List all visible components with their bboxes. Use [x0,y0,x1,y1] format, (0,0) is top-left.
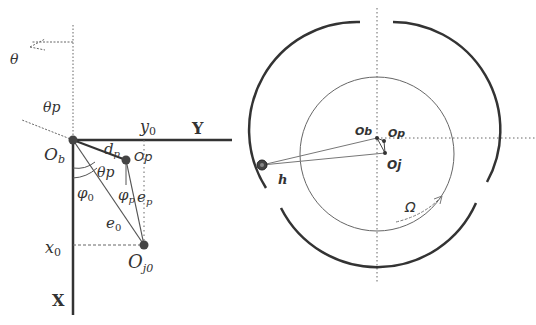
oj-point-right [383,151,387,155]
e0-label: e0 [106,214,121,233]
ob-label-right: Ob [355,125,372,138]
h-label: h [278,172,287,187]
oj0-label: Oj0 [128,251,153,275]
op-label-right: Op [388,127,405,140]
theta-arrow-icon [30,39,73,50]
theta-p-label-inner: θp [97,164,114,180]
film-line-to-oj [262,153,385,165]
oj-label-right: Oj [387,158,402,172]
ob-point-right [375,136,379,140]
ob-label: Ob [44,144,65,166]
ob-point [69,136,78,145]
phip-label: φp [118,186,136,205]
bearing-pad-right [393,22,500,182]
x-axis-label: X [52,291,65,310]
y0-label: y0 [139,117,156,138]
rotated-axis-extension [22,120,73,140]
film-line-to-ob [262,138,377,165]
theta-label: θ [10,51,19,67]
diagram-canvas: θ θp Y y0 X x0 Ob dp Op [0,0,536,325]
h-point-inner [260,163,264,167]
right-diagram: Ob Op Oj h Ω [249,8,535,282]
op-label: Op [134,149,152,164]
y-axis-label: Y [191,119,204,138]
omega-label: Ω [404,199,416,215]
x0-label: x0 [45,238,61,259]
op-point [122,156,131,165]
dp-label: dp [104,140,121,159]
left-diagram: θ θp Y y0 X x0 Ob dp Op [10,25,232,315]
ep-label: ep [137,188,153,207]
phi0-label: φ0 [77,184,94,203]
bearing-pad-bottom [281,203,476,267]
oj0-point [140,241,149,250]
theta-p-label-top: θp [43,99,60,115]
op-point-right [382,139,386,143]
